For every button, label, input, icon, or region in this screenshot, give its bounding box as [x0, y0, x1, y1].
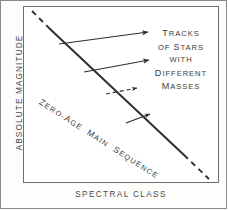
annotation-line-4-rest: IFFERENT — [162, 69, 207, 78]
main-sequence-dashed-lower — [184, 155, 209, 179]
track-arrow-1 — [59, 32, 148, 44]
tracks-annotation: TRACKS OF STARS WITH DIFFERENT MASSES — [143, 27, 219, 94]
x-axis-label: SPECTRAL CLASS — [23, 190, 219, 199]
annotation-line-2-rest: TARS — [181, 43, 205, 52]
track-arrow-2 — [84, 60, 149, 72]
figure-page: ZERO-AGE MAIN SEQUENCE TRACKS OF STARS W… — [0, 0, 228, 210]
annotation-line-2-cap: S — [174, 42, 181, 52]
annotation-line-2-pre: OF — [158, 43, 174, 52]
main-sequence-dashed-upper — [32, 11, 51, 30]
annotation-line-3: WITH — [143, 54, 219, 67]
annotation-line-5-cap: M — [162, 81, 171, 91]
annotation-line-5-rest: ASSES — [170, 82, 200, 91]
annotation-line-2: OF STARS — [143, 41, 219, 55]
track-arrow-3 — [106, 88, 137, 94]
y-axis-label: ABSOLUTE MAGNITUDE — [15, 23, 24, 163]
annotation-line-5: MASSES — [143, 80, 219, 94]
annotation-line-4: DIFFERENT — [143, 67, 219, 81]
annotation-line-1-rest: RACKS — [169, 29, 200, 38]
annotation-line-1: TRACKS — [143, 27, 219, 41]
annotation-line-3-rest: WITH — [169, 55, 192, 64]
